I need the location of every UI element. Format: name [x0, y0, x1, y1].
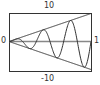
lower-envelope-line [9, 42, 91, 70]
upper-envelope-line [9, 14, 91, 42]
plot-area [0, 0, 100, 85]
